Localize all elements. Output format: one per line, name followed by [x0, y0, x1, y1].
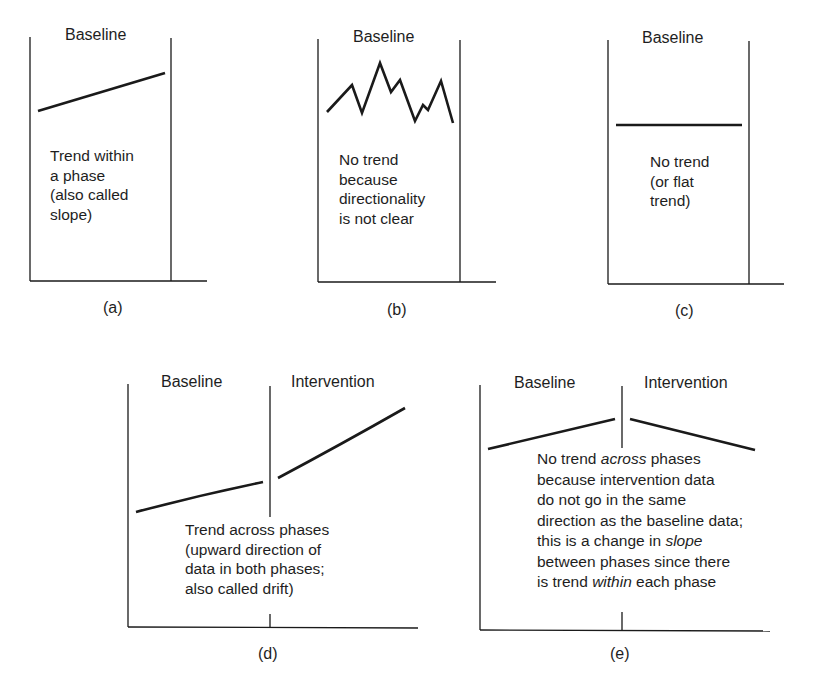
panel-a-phase-label: Baseline	[65, 26, 126, 44]
panel-e-caption: (e)	[610, 645, 630, 663]
description-line: direction as the baseline data;	[537, 511, 743, 532]
description-line: between phases since there	[537, 552, 743, 573]
description-line: also called drift)	[185, 579, 329, 599]
description-line: Trend across phases	[185, 520, 329, 540]
description-line: Trend within	[50, 146, 134, 166]
panel-e-intervention-trend	[630, 419, 755, 450]
panel-d-phase-label-baseline: Baseline	[161, 373, 222, 391]
panel-b-zigzag-line	[327, 63, 453, 123]
panel-e-phase-label-baseline: Baseline	[514, 374, 575, 392]
panel-d-phase-label-intervention: Intervention	[291, 373, 375, 391]
description-line: this is a change in slope	[537, 531, 743, 552]
description-line: data in both phases;	[185, 559, 329, 579]
description-line: because	[339, 170, 425, 190]
panel-a-trend-line	[38, 73, 165, 111]
panel-e-phase-label-intervention: Intervention	[644, 374, 728, 392]
panel-d-intervention-trend	[278, 408, 405, 478]
panel-b-description: No trend because directionality is not c…	[339, 150, 425, 228]
panel-a-caption: (a)	[103, 299, 123, 317]
description-line: No trend	[650, 152, 709, 172]
panel-c-description: No trend (or flat trend)	[650, 152, 709, 211]
description-line: directionality	[339, 189, 425, 209]
panel-e-description: No trend across phases because intervent…	[537, 449, 743, 593]
description-line: is not clear	[339, 209, 425, 229]
panel-c-phase-label: Baseline	[642, 29, 703, 47]
panel-d-baseline-trend	[136, 482, 263, 512]
description-line: do not go in the same	[537, 490, 743, 511]
description-line: No trend across phases	[537, 449, 743, 470]
description-line: No trend	[339, 150, 425, 170]
description-line: is trend within each phase	[537, 572, 743, 593]
panel-d-description: Trend across phases (upward direction of…	[185, 520, 329, 598]
panel-a-description: Trend within a phase (also called slope)	[50, 146, 134, 224]
panel-e-x-axis	[480, 630, 770, 631]
description-line: (or flat	[650, 172, 709, 192]
panel-b-caption: (b)	[387, 301, 407, 319]
description-line: (also called	[50, 185, 134, 205]
panel-d-x-axis	[128, 627, 418, 628]
description-line: a phase	[50, 166, 134, 186]
panel-c-caption: (c)	[675, 302, 694, 320]
panel-b-phase-label: Baseline	[353, 28, 414, 46]
description-line: trend)	[650, 191, 709, 211]
description-line: slope)	[50, 205, 134, 225]
description-line: (upward direction of	[185, 540, 329, 560]
panel-e-baseline-trend	[488, 419, 615, 449]
description-line: because intervention data	[537, 470, 743, 491]
panel-d-caption: (d)	[258, 645, 278, 663]
